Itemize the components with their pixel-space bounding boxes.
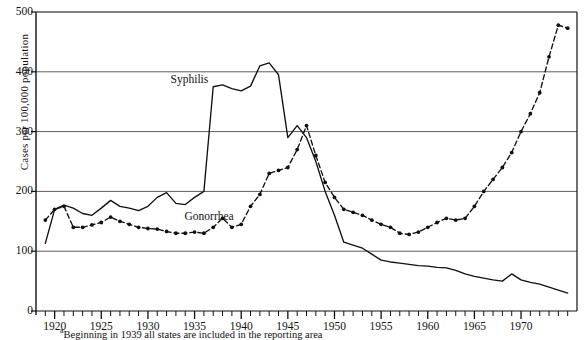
series-marker-gonorrhea	[286, 166, 290, 170]
series-marker-gonorrhea	[211, 225, 215, 229]
series-marker-gonorrhea	[239, 222, 243, 226]
series-marker-gonorrhea	[267, 172, 271, 176]
series-marker-gonorrhea	[202, 231, 206, 235]
series-marker-gonorrhea	[379, 222, 383, 226]
series-marker-gonorrhea	[258, 192, 262, 196]
series-marker-gonorrhea	[361, 213, 365, 217]
series-marker-gonorrhea	[491, 178, 495, 182]
series-marker-gonorrhea	[398, 231, 402, 235]
series-marker-gonorrhea	[417, 230, 421, 234]
series-marker-gonorrhea	[519, 130, 523, 134]
series-marker-gonorrhea	[155, 227, 159, 231]
x-tick-label-1930: 1930	[123, 321, 173, 333]
series-marker-gonorrhea	[174, 231, 178, 235]
series-marker-gonorrhea	[566, 26, 570, 30]
series-marker-gonorrhea	[426, 225, 430, 229]
series-marker-gonorrhea	[53, 207, 57, 211]
x-tick-label-1925: 1925	[76, 321, 126, 333]
series-marker-gonorrhea	[165, 230, 169, 234]
series-marker-gonorrhea	[547, 55, 551, 59]
series-marker-gonorrhea	[407, 233, 411, 237]
series-marker-gonorrhea	[62, 204, 66, 208]
series-marker-gonorrhea	[99, 221, 103, 225]
series-marker-gonorrhea	[43, 218, 47, 222]
series-label-gonorrhea: Gonorrhea	[185, 211, 234, 223]
series-marker-gonorrhea	[463, 216, 467, 220]
series-marker-gonorrhea	[81, 225, 85, 229]
chart-container: Cases per 100,000 population 01002003004…	[0, 0, 588, 340]
series-marker-gonorrhea	[295, 148, 299, 152]
x-tick-label-1965: 1965	[449, 321, 499, 333]
x-tick-label-1940: 1940	[216, 321, 266, 333]
x-tick-label-1955: 1955	[356, 321, 406, 333]
series-marker-gonorrhea	[71, 225, 75, 229]
series-label-syphilis: Syphilis	[171, 74, 209, 86]
series-marker-gonorrhea	[445, 216, 449, 220]
series-marker-gonorrhea	[193, 230, 197, 234]
series-marker-gonorrhea	[370, 218, 374, 222]
series-marker-gonorrhea	[90, 223, 94, 227]
series-marker-gonorrhea	[538, 91, 542, 95]
series-line-gonorrhea	[45, 25, 567, 234]
series-marker-gonorrhea	[556, 23, 560, 27]
series-marker-gonorrhea	[323, 181, 327, 185]
series-marker-gonorrhea	[510, 151, 514, 155]
x-tick-label-1970: 1970	[496, 321, 546, 333]
series-line-syphilis	[45, 63, 567, 293]
series-marker-gonorrhea	[230, 225, 234, 229]
series-marker-gonorrhea	[435, 221, 439, 225]
series-marker-gonorrhea	[137, 225, 141, 229]
x-tick-label-1960: 1960	[403, 321, 453, 333]
series-marker-gonorrhea	[333, 195, 337, 199]
series-marker-gonorrhea	[146, 227, 150, 231]
x-tick-label-1945: 1945	[263, 321, 313, 333]
x-tick-label-1950: 1950	[309, 321, 359, 333]
series-marker-gonorrhea	[118, 219, 122, 223]
series-marker-gonorrhea	[454, 218, 458, 222]
series-marker-gonorrhea	[342, 207, 346, 211]
chart-plot-area	[0, 0, 588, 340]
x-tick-label-1920: 1920	[30, 321, 80, 333]
series-marker-gonorrhea	[305, 124, 309, 128]
series-marker-gonorrhea	[109, 215, 113, 219]
series-marker-gonorrhea	[249, 204, 253, 208]
series-marker-gonorrhea	[277, 169, 281, 173]
series-marker-gonorrhea	[351, 210, 355, 214]
x-tick-label-1935: 1935	[170, 321, 220, 333]
series-marker-gonorrhea	[500, 166, 504, 170]
series-marker-gonorrhea	[528, 112, 532, 116]
series-marker-gonorrhea	[389, 225, 393, 229]
series-marker-gonorrhea	[482, 190, 486, 194]
series-marker-gonorrhea	[183, 231, 187, 235]
series-marker-gonorrhea	[472, 204, 476, 208]
series-marker-gonorrhea	[127, 222, 131, 226]
series-marker-gonorrhea	[314, 154, 318, 158]
